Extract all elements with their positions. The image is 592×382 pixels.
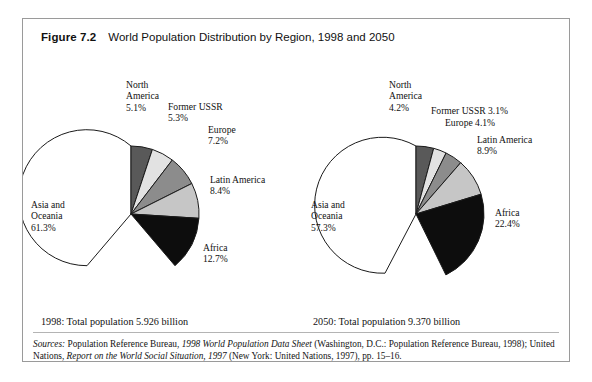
pie-label-europe-1998: Europe 7.2%: [208, 124, 236, 147]
pie-label-europe-2050: Europe 4.1%: [445, 117, 495, 128]
pie-label-former-ussr-1998: Former USSR 5.3%: [168, 101, 223, 124]
pie-label-value: 57.3%: [311, 222, 345, 233]
pie-chart-1998: North America 5.1% Former USSR 5.3% Euro…: [23, 59, 297, 309]
pie-label-value: 7.2%: [208, 135, 236, 146]
pie-label-north-america-1998: North America 5.1%: [126, 79, 159, 113]
pie-label-latin-america-1998: Latin America 8.4%: [210, 174, 265, 197]
pie-label-line: Africa: [495, 207, 520, 218]
pie-label-line: Europe: [208, 124, 236, 135]
pie-label-line: America: [389, 90, 422, 101]
pie-label-former-ussr-2050: Former USSR 3.1%: [431, 105, 508, 116]
pie-label-line: Former USSR: [168, 101, 223, 112]
source-part-3: (New York: United Nations, 1997), pp. 15…: [227, 351, 402, 361]
pie-label-value: 12.7%: [203, 253, 228, 264]
pie-label-line: Asia and: [311, 199, 345, 210]
figure-frame: Figure 7.2World Population Distribution …: [22, 18, 570, 362]
pie-label-value: 4.2%: [389, 102, 422, 113]
total-population-caption-1998: 1998: Total population 5.926 billion: [41, 316, 188, 327]
source-lead: Sources:: [33, 339, 65, 349]
pie-label-value: 8.9%: [477, 145, 532, 156]
figure-title: Figure 7.2World Population Distribution …: [41, 31, 395, 43]
pie-label-line: Europe 4.1%: [445, 117, 495, 128]
pie-label-north-america-2050: North America 4.2%: [389, 79, 422, 113]
figure-number: Figure 7.2: [41, 31, 96, 43]
pie-slice-africa-1998[interactable]: [131, 214, 199, 266]
pie-label-africa-1998: Africa 12.7%: [203, 242, 228, 265]
pie-label-line: North: [126, 79, 159, 90]
figure-title-text: World Population Distribution by Region,…: [108, 31, 394, 43]
pie-label-line: Oceania: [31, 210, 65, 221]
pie-label-line: Latin America: [210, 174, 265, 185]
source-italic-title-2: Report on the World Social Situation, 19…: [67, 351, 227, 361]
pie-label-value: 8.4%: [210, 185, 265, 196]
pie-label-value: 5.3%: [168, 112, 223, 123]
pie-label-line: Oceania: [311, 210, 345, 221]
pie-label-line: Former USSR 3.1%: [431, 105, 508, 116]
pie-label-value: 22.4%: [495, 218, 520, 229]
pie-label-line: Asia and: [31, 199, 65, 210]
pie-label-line: America: [126, 90, 159, 101]
pie-label-line: Latin America: [477, 134, 532, 145]
total-population-caption-2050: 2050: Total population 9.370 billion: [313, 316, 460, 327]
pie-label-africa-2050: Africa 22.4%: [495, 207, 520, 230]
pie-svg-2050: [297, 59, 571, 309]
pie-label-line: North: [389, 79, 422, 90]
source-note: Sources: Population Reference Bureau, 19…: [33, 338, 561, 363]
pie-label-value: 5.1%: [126, 102, 159, 113]
pie-label-value: 61.3%: [31, 222, 65, 233]
source-italic-title-1: 1998 World Population Data Sheet: [182, 339, 312, 349]
pie-slice-asia-oceania-1998[interactable]: [23, 130, 131, 266]
pie-chart-2050: North America 4.2% Former USSR 3.1% Euro…: [297, 59, 571, 309]
pie-label-asia-oceania-2050: Asia and Oceania 57.3%: [311, 199, 345, 233]
pie-label-asia-oceania-1998: Asia and Oceania 61.3%: [31, 199, 65, 233]
source-part-1: Population Reference Bureau,: [65, 339, 181, 349]
source-divider: [33, 332, 559, 333]
pie-label-latin-america-2050: Latin America 8.9%: [477, 134, 532, 157]
pie-label-line: Africa: [203, 242, 228, 253]
